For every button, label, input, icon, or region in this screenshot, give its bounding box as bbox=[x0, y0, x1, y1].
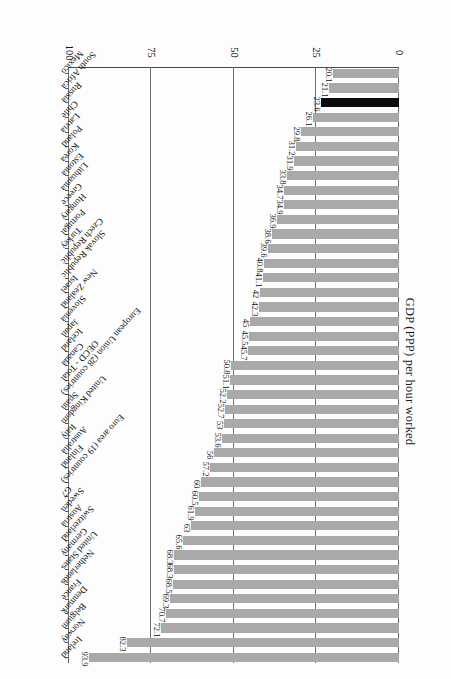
bar-row: 29.8Latvia bbox=[69, 125, 399, 137]
bar-row: 82.3Norway bbox=[69, 636, 399, 648]
value-label: 42 bbox=[251, 290, 261, 299]
bar-united-states bbox=[174, 565, 399, 574]
value-label: 41.1 bbox=[254, 272, 264, 287]
bar-row: 34.7Lithuania bbox=[69, 184, 399, 196]
bar-norway bbox=[127, 638, 399, 647]
bar-row: 60Euro area (19 countries) bbox=[69, 476, 399, 488]
bar-row: 68.3Germany bbox=[69, 549, 399, 561]
bar-rows: 93.9Ireland82.3Norway72.1Belgium70.7Denm… bbox=[69, 67, 399, 663]
bar-oecd-total bbox=[230, 375, 399, 384]
bar-hungary bbox=[277, 215, 399, 224]
bar-poland bbox=[296, 142, 399, 151]
plot-area: 0255075100 93.9Ireland82.3Norway72.1Belg… bbox=[69, 53, 399, 663]
value-label: 82.3 bbox=[118, 637, 128, 652]
value-label: 50.8 bbox=[222, 360, 232, 375]
bar-row: 42.3New Zealand bbox=[69, 301, 399, 313]
bar-south-africa bbox=[329, 83, 399, 92]
bar-row: 72.1Belgium bbox=[69, 622, 399, 634]
bar-slovenia bbox=[251, 317, 400, 326]
bar-switzerland bbox=[183, 536, 399, 545]
value-label: 45.5 bbox=[240, 330, 250, 345]
bar-row: 53United Kingdom bbox=[69, 417, 399, 429]
bar-row: 60.5G7 bbox=[69, 490, 399, 502]
bar-row: 56Australia bbox=[69, 447, 399, 459]
bar-row: 57.2Finland bbox=[69, 461, 399, 473]
bar-denmark bbox=[166, 609, 399, 618]
value-label: 26.1 bbox=[304, 112, 314, 127]
value-label: 70.7 bbox=[157, 608, 167, 623]
rotated-figure: GDP (PPP) per hour worked 0255075100 93.… bbox=[0, 0, 451, 679]
bar-united-kingdom bbox=[224, 419, 399, 428]
value-label: 68.3 bbox=[165, 564, 175, 579]
bar-row: 42Israel bbox=[69, 286, 399, 298]
bar-row: 26.1Chile bbox=[69, 111, 399, 123]
value-label: 69.3 bbox=[161, 593, 171, 608]
value-label: 34.9 bbox=[275, 199, 285, 214]
bar-new-zealand bbox=[259, 302, 399, 311]
bar-row: 21.1South Africa bbox=[69, 82, 399, 94]
bar-finland bbox=[210, 463, 399, 472]
bar-russia bbox=[321, 98, 399, 107]
bar-lithuania bbox=[285, 186, 400, 195]
bar-row: 50.8Canada bbox=[69, 359, 399, 371]
value-label: 56 bbox=[205, 450, 215, 459]
bar-row: 41.1Slovak Republic bbox=[69, 271, 399, 283]
value-label: 53.6 bbox=[213, 433, 223, 448]
bar-row: 52.2European Union (28 countries) bbox=[69, 388, 399, 400]
bar-latvia bbox=[301, 127, 399, 136]
value-label: 34.7 bbox=[276, 184, 286, 199]
value-label: 72.1 bbox=[152, 622, 162, 637]
bar-portugal bbox=[272, 229, 399, 238]
value-label: 68.5 bbox=[164, 579, 174, 594]
axis-title: GDP (PPP) per hour worked bbox=[402, 242, 417, 502]
bar-greece bbox=[284, 200, 399, 209]
tick-label-0: 0 bbox=[394, 50, 405, 55]
bar-row: 61.9Sweden bbox=[69, 505, 399, 517]
bar-japan bbox=[249, 332, 399, 341]
bar-g7 bbox=[199, 492, 399, 501]
bar-row: 63Austria bbox=[69, 519, 399, 531]
bar-row: 31.9Korea bbox=[69, 155, 399, 167]
value-label: 45.7 bbox=[239, 345, 249, 360]
value-label: 53 bbox=[215, 421, 225, 430]
bar-row: 93.9Ireland bbox=[69, 651, 399, 663]
bar-row: 68.3United States bbox=[69, 563, 399, 575]
bar-iceland bbox=[248, 346, 399, 355]
bar-ireland bbox=[89, 653, 399, 662]
bar-canada bbox=[231, 361, 399, 370]
value-label: 20.1 bbox=[324, 68, 334, 83]
value-label: 45 bbox=[242, 319, 252, 328]
bar-germany bbox=[174, 550, 399, 559]
bar-row: 51.1OECD - Total bbox=[69, 374, 399, 386]
bar-row: 23.6Russia bbox=[69, 96, 399, 108]
bar-row: 70.7Denmark bbox=[69, 607, 399, 619]
value-label: 29.8 bbox=[292, 126, 302, 141]
bar-chile bbox=[313, 113, 399, 122]
bar-row: 20.1Mexico bbox=[69, 67, 399, 79]
value-label: 68.3 bbox=[165, 549, 175, 564]
bar-row: 53.6Italy bbox=[69, 432, 399, 444]
bar-row: 68.5Netherlands bbox=[69, 578, 399, 590]
bar-row: 65.6Switzerland bbox=[69, 534, 399, 546]
value-label: 60.5 bbox=[190, 491, 200, 506]
bar-australia bbox=[214, 448, 399, 457]
value-label: 39.6 bbox=[259, 243, 269, 258]
bar-row: 33.8Estonia bbox=[69, 169, 399, 181]
bar-row: 52.7Spain bbox=[69, 403, 399, 415]
chart-page: GDP (PPP) per hour worked 0255075100 93.… bbox=[0, 0, 451, 679]
value-label: 33.8 bbox=[278, 170, 288, 185]
tick-label-25: 25 bbox=[311, 47, 322, 58]
value-label: 57.2 bbox=[201, 462, 211, 477]
value-label: 51.1 bbox=[221, 374, 231, 389]
bar-korea bbox=[294, 156, 399, 165]
bar-row: 39.6Turkey bbox=[69, 242, 399, 254]
value-label: 42.3 bbox=[250, 301, 260, 316]
value-label: 65.6 bbox=[174, 535, 184, 550]
tick-label-75: 75 bbox=[146, 47, 157, 58]
bar-row: 31.2Poland bbox=[69, 140, 399, 152]
bar-israel bbox=[260, 288, 399, 297]
value-label: 38.6 bbox=[263, 228, 273, 243]
bar-turkey bbox=[268, 244, 399, 253]
bar-row: 36.9Hungary bbox=[69, 213, 399, 225]
bar-euro-area-19-countries bbox=[201, 478, 399, 487]
